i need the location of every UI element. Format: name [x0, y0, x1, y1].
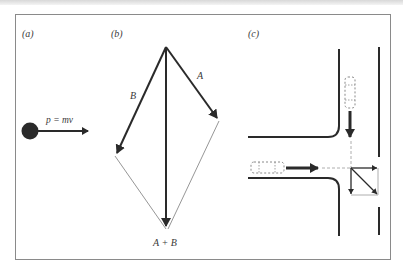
- mass-ball-icon: [22, 123, 39, 140]
- parallelogram-side-left: [115, 156, 166, 229]
- momentum-resultant-vector: [351, 168, 377, 194]
- resultant-label: A + B: [152, 237, 177, 248]
- panel-c-label: (c): [248, 28, 260, 40]
- panel-b: (b) A B A + B: [111, 28, 219, 248]
- parallelogram-side-right: [168, 121, 219, 229]
- panel-a: (a) p = mv: [22, 28, 89, 140]
- vector-b-arrow: [117, 47, 166, 153]
- vector-a-label: A: [196, 70, 204, 81]
- vector-a-arrow: [166, 47, 217, 118]
- panel-b-label: (b): [111, 28, 123, 40]
- momentum-equation: p = mv: [45, 115, 74, 125]
- car-southbound-icon: [345, 77, 355, 108]
- car-eastbound-icon: [251, 162, 284, 173]
- road-edge-lower-left: [248, 178, 339, 236]
- panel-c: (c): [248, 28, 379, 236]
- vector-b-label: B: [130, 90, 136, 101]
- panel-a-label: (a): [22, 28, 34, 40]
- road-edge-upper-left: [248, 49, 339, 137]
- diagram-canvas: (a) p = mv (b) A B A + B (c): [0, 0, 403, 269]
